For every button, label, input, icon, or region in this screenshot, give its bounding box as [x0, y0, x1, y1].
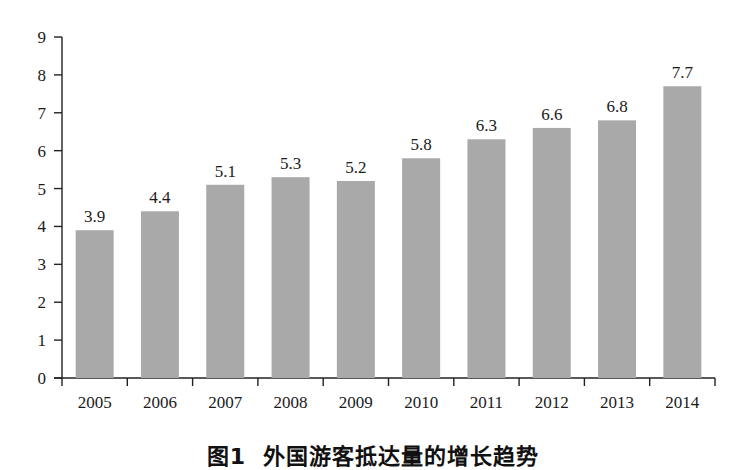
- bar-2009: [337, 181, 375, 378]
- bar-2008: [272, 177, 310, 378]
- caption-text: 外国游客抵达量的增长趋势: [263, 444, 539, 469]
- bar-2006: [141, 211, 179, 378]
- value-label: 4.4: [149, 188, 171, 207]
- value-label: 5.2: [345, 158, 366, 177]
- bar-2014: [663, 86, 701, 378]
- x-tick-label: 2006: [143, 393, 177, 412]
- x-tick-label: 2008: [274, 393, 308, 412]
- y-tick-label: 3: [38, 255, 47, 274]
- value-label: 5.8: [411, 135, 432, 154]
- chart-caption: 图1 外国游客抵达量的增长趋势: [0, 438, 746, 470]
- bars: 3.94.45.15.35.25.86.36.66.87.7: [76, 63, 702, 378]
- value-label: 6.8: [606, 97, 627, 116]
- bar-2005: [76, 230, 114, 378]
- y-tick-label: 7: [38, 104, 47, 123]
- y-tick-label: 6: [38, 142, 47, 161]
- figure-number: 图1: [207, 444, 246, 469]
- y-tick-label: 1: [38, 331, 47, 350]
- value-label: 6.3: [476, 116, 497, 135]
- value-label: 7.7: [672, 63, 694, 82]
- x-tick-label: 2010: [404, 393, 438, 412]
- value-label: 5.3: [280, 154, 301, 173]
- x-tick-label: 2009: [339, 393, 373, 412]
- x-axis: 2005200620072008200920102011201220132014: [54, 378, 715, 412]
- x-tick-label: 2014: [665, 393, 700, 412]
- y-tick-label: 9: [38, 28, 47, 47]
- x-tick-label: 2013: [600, 393, 634, 412]
- y-tick-label: 4: [38, 217, 47, 236]
- bar-2007: [206, 185, 244, 378]
- value-label: 5.1: [215, 162, 236, 181]
- y-tick-label: 0: [38, 369, 47, 388]
- x-tick-label: 2011: [470, 393, 503, 412]
- y-axis: 0123456789: [38, 28, 63, 388]
- x-tick-label: 2007: [208, 393, 243, 412]
- y-tick-label: 2: [38, 293, 47, 312]
- bar-2013: [598, 120, 636, 378]
- bar-2012: [533, 128, 571, 378]
- bar-2011: [467, 139, 505, 378]
- y-tick-label: 8: [38, 66, 47, 85]
- x-tick-label: 2005: [78, 393, 112, 412]
- value-label: 6.6: [541, 105, 562, 124]
- value-label: 3.9: [84, 207, 105, 226]
- bar-2010: [402, 158, 440, 378]
- x-tick-label: 2012: [535, 393, 569, 412]
- y-tick-label: 5: [38, 180, 47, 199]
